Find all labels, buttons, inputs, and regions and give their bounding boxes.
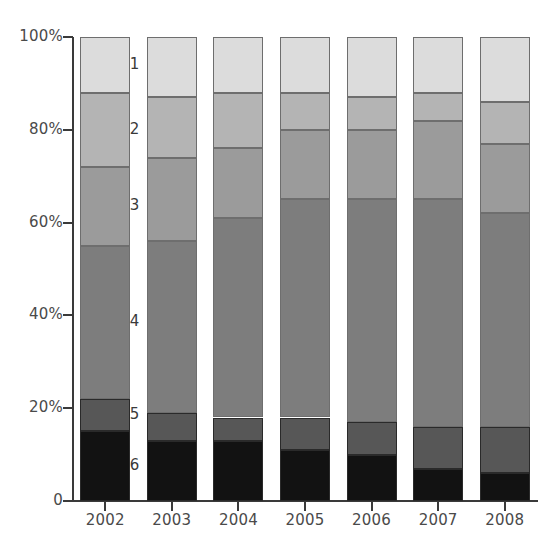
y-tick-label: 60%	[5, 213, 63, 231]
bar-segment-1[interactable]	[147, 37, 197, 97]
y-axis-tick: 60%	[0, 223, 63, 224]
bar-segment-1[interactable]	[213, 37, 263, 93]
bar-segment-4[interactable]	[480, 213, 530, 426]
bar-segment-4[interactable]	[213, 218, 263, 418]
y-tick-label: 80%	[5, 120, 63, 138]
bar-segment-2[interactable]	[213, 93, 263, 149]
bar-column[interactable]	[80, 37, 130, 501]
bar-segment-3[interactable]	[413, 121, 463, 200]
bar-segment-6[interactable]	[147, 441, 197, 501]
x-tick-mark	[504, 502, 506, 511]
bar-segment-5[interactable]	[347, 422, 397, 454]
bar-segment-1[interactable]	[413, 37, 463, 93]
y-axis-tick: 0	[0, 501, 63, 502]
y-tick-label: 100%	[5, 27, 63, 45]
bar-segment-2[interactable]	[347, 97, 397, 129]
bar-column[interactable]	[213, 37, 263, 501]
bar-segment-5[interactable]	[480, 427, 530, 473]
bar-segment-5[interactable]	[213, 418, 263, 441]
bar-segment-1[interactable]	[80, 37, 130, 93]
x-tick-mark	[237, 502, 239, 511]
bar-segment-2[interactable]	[147, 97, 197, 157]
y-axis-tick: 80%	[0, 130, 63, 131]
bar-segment-1[interactable]	[480, 37, 530, 102]
bar-segment-6[interactable]	[413, 469, 463, 501]
y-axis-tick: 20%	[0, 408, 63, 409]
bar-segment-3[interactable]	[280, 130, 330, 200]
bar-segment-6[interactable]	[480, 473, 530, 501]
bar-segment-3[interactable]	[347, 130, 397, 200]
x-tick-mark	[371, 502, 373, 511]
y-tick-label: 40%	[5, 305, 63, 323]
y-axis-tick: 40%	[0, 315, 63, 316]
bar-segment-5[interactable]	[413, 427, 463, 469]
x-tick-mark	[437, 502, 439, 511]
series-label-1: 1	[127, 55, 143, 73]
plot-area	[72, 37, 538, 501]
stacked-bar-chart: 100%80%60%40%20%0 2002200320042005200620…	[0, 0, 552, 547]
bar-segment-5[interactable]	[147, 413, 197, 441]
bar-column[interactable]	[480, 37, 530, 501]
y-tick-label: 0	[5, 491, 63, 509]
series-label-4: 4	[127, 312, 143, 330]
bar-segment-2[interactable]	[480, 102, 530, 144]
bar-segment-1[interactable]	[347, 37, 397, 97]
bar-column[interactable]	[147, 37, 197, 501]
bar-segment-4[interactable]	[280, 199, 330, 417]
x-tick-mark	[304, 502, 306, 511]
series-label-6: 6	[127, 456, 143, 474]
bar-segment-6[interactable]	[280, 450, 330, 501]
bar-column[interactable]	[413, 37, 463, 501]
x-tick-label: 2008	[465, 511, 545, 529]
bar-column[interactable]	[347, 37, 397, 501]
bar-segment-3[interactable]	[480, 144, 530, 214]
bar-segment-6[interactable]	[213, 441, 263, 501]
bar-segment-3[interactable]	[213, 148, 263, 218]
series-label-3: 3	[127, 196, 143, 214]
bar-segment-6[interactable]	[80, 431, 130, 501]
bar-segment-3[interactable]	[147, 158, 197, 242]
bar-segment-1[interactable]	[280, 37, 330, 93]
bar-segment-3[interactable]	[80, 167, 130, 246]
y-axis-tick: 100%	[0, 37, 63, 38]
series-label-2: 2	[127, 120, 143, 138]
bar-segment-2[interactable]	[280, 93, 330, 130]
bar-segment-4[interactable]	[147, 241, 197, 413]
bar-segment-2[interactable]	[80, 93, 130, 167]
bar-segment-2[interactable]	[413, 93, 463, 121]
bar-column[interactable]	[280, 37, 330, 501]
bar-segment-4[interactable]	[413, 199, 463, 426]
bar-segment-5[interactable]	[280, 418, 330, 450]
bar-segment-4[interactable]	[80, 246, 130, 399]
bar-segment-4[interactable]	[347, 199, 397, 422]
bar-segment-6[interactable]	[347, 455, 397, 501]
bar-segment-5[interactable]	[80, 399, 130, 431]
x-tick-mark	[104, 502, 106, 511]
series-label-5: 5	[127, 405, 143, 423]
x-tick-mark	[171, 502, 173, 511]
y-tick-label: 20%	[5, 398, 63, 416]
